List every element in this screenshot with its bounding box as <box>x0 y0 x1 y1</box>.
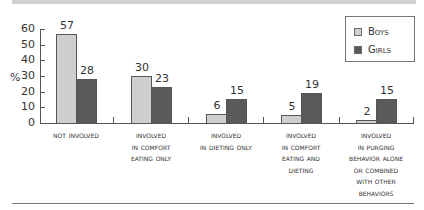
x-tick <box>113 117 114 123</box>
y-tick <box>40 92 45 93</box>
y-tick-label: 60 <box>5 23 35 34</box>
category-label-line: in comfort <box>111 142 191 154</box>
category-label-line: behaviors <box>336 188 416 200</box>
category-label-line: in dieting only <box>186 142 266 154</box>
category-label-line: Involved <box>336 130 416 142</box>
category-label-line: Involved <box>111 130 191 142</box>
legend: Boys Girls <box>345 16 415 62</box>
category-label-line: or combined <box>336 165 416 177</box>
category-label: Involvedin comforteating anddieting <box>261 130 341 176</box>
category-label-line: with other <box>336 176 416 188</box>
y-tick <box>40 29 45 30</box>
bar-boys <box>56 34 77 124</box>
value-label-girls: 19 <box>297 79 327 90</box>
top-rule <box>12 0 416 4</box>
category-label-line: dieting <box>261 165 341 177</box>
value-label-girls: 15 <box>372 85 402 96</box>
value-label-girls: 15 <box>222 85 252 96</box>
bar-girls <box>76 79 97 124</box>
y-tick <box>40 123 45 124</box>
value-label-girls: 23 <box>147 73 177 84</box>
category-label: Involvedin dieting only <box>186 130 266 153</box>
category-label-line: eating only <box>111 153 191 165</box>
category-label-line: Involved <box>261 130 341 142</box>
category-label: Involvedin comforteating only <box>111 130 191 165</box>
y-tick <box>40 76 45 77</box>
category-label-line: Involved <box>186 130 266 142</box>
x-tick <box>339 117 340 123</box>
bottom-rule <box>12 203 414 204</box>
bar-boys <box>281 115 302 124</box>
bar-boys <box>206 114 227 124</box>
category-label: Not involved <box>36 130 116 142</box>
legend-item-girls: Girls <box>354 44 391 55</box>
category-label-line: eating and <box>261 153 341 165</box>
bar-girls <box>301 93 322 124</box>
bar-girls <box>151 87 172 124</box>
bar-boys <box>356 120 377 124</box>
girls-swatch-icon <box>354 46 362 54</box>
category-label-line: in comfort <box>261 142 341 154</box>
value-label-girls: 28 <box>72 65 102 76</box>
x-tick <box>263 117 264 123</box>
bar-girls <box>226 99 247 124</box>
category-label-line: Not involved <box>36 130 116 142</box>
y-tick-label: 10 <box>5 101 35 112</box>
legend-label-boys: Boys <box>368 26 389 37</box>
category-label: Involvedin purgingbehavior aloneor combi… <box>336 130 416 199</box>
y-tick <box>40 107 45 108</box>
y-tick-label: 30 <box>5 70 35 81</box>
y-tick <box>40 45 45 46</box>
legend-label-girls: Girls <box>368 44 391 55</box>
value-label-boys: 30 <box>127 62 157 73</box>
legend-item-boys: Boys <box>354 26 389 37</box>
y-tick-label: 50 <box>5 39 35 50</box>
category-label-line: behavior alone <box>336 153 416 165</box>
boys-swatch-icon <box>354 28 362 36</box>
y-tick-label: 0 <box>5 117 35 128</box>
category-label-line: in purging <box>336 142 416 154</box>
x-tick <box>413 117 414 123</box>
bar-girls <box>376 99 397 124</box>
y-tick-label: 40 <box>5 54 35 65</box>
x-tick <box>188 117 189 123</box>
value-label-boys: 57 <box>52 20 82 31</box>
y-tick <box>40 60 45 61</box>
y-tick-label: 20 <box>5 86 35 97</box>
